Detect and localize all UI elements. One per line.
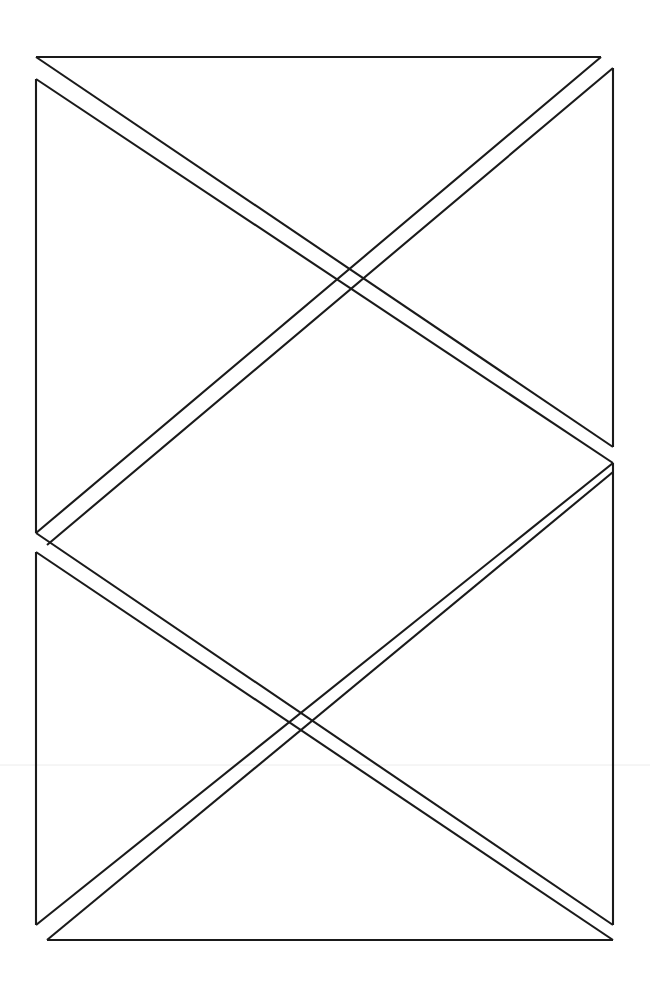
geometric-figure [0, 0, 650, 984]
page-background [0, 0, 650, 984]
drawing-canvas [0, 0, 650, 984]
